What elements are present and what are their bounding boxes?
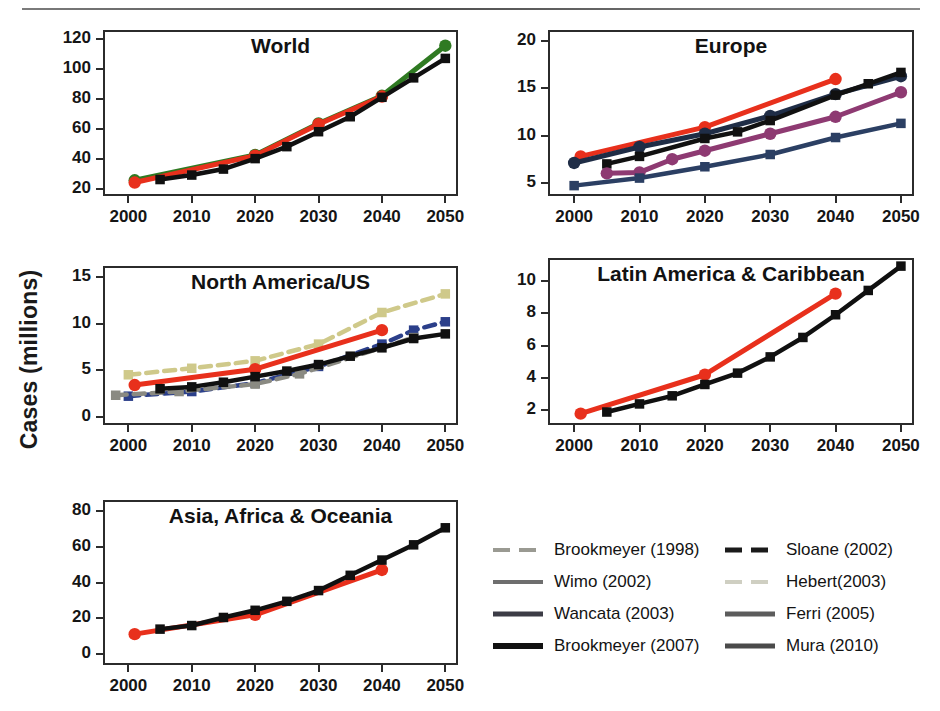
data-point-circle [439, 40, 451, 52]
y-tick-label: 5 [492, 172, 536, 192]
x-tick-mark [381, 196, 383, 203]
legend-item[interactable]: Wancata (2003) [492, 598, 700, 630]
x-tick-mark [381, 425, 383, 432]
x-tick-label: 2030 [289, 207, 349, 227]
data-point-circle [129, 176, 141, 188]
data-point-square [409, 334, 419, 344]
legend-label: Brookmeyer (1998) [554, 540, 700, 560]
y-tick-mark [96, 369, 103, 371]
y-tick-label: 10 [492, 270, 536, 290]
x-tick-label: 2040 [352, 207, 412, 227]
data-point-circle [633, 141, 645, 153]
legend-item[interactable]: Brookmeyer (2007) [492, 630, 700, 662]
data-point-circle [829, 287, 841, 299]
x-tick-label: 2010 [162, 207, 222, 227]
legend-item[interactable]: Brookmeyer (1998) [492, 534, 700, 566]
legend-label: Brookmeyer (2007) [554, 636, 700, 656]
y-tick-mark [541, 280, 548, 282]
data-point-circle [129, 379, 141, 391]
y-tick-mark [96, 158, 103, 160]
x-tick-label: 2030 [740, 207, 800, 227]
legend-item[interactable]: Wimo (2002) [492, 566, 700, 598]
y-tick-label: 20 [492, 30, 536, 50]
x-tick-mark [318, 196, 320, 203]
x-tick-mark [254, 665, 256, 672]
data-point-square [441, 317, 451, 327]
x-tick-label: 2020 [225, 676, 285, 696]
data-point-circle [574, 407, 586, 419]
legend-column-left: Brookmeyer (1998)Wimo (2002)Wancata (200… [492, 534, 700, 662]
data-point-square [124, 370, 134, 380]
data-point-square [155, 384, 165, 394]
x-tick-mark [444, 425, 446, 432]
series-layer [548, 258, 914, 425]
x-tick-mark [127, 665, 129, 672]
x-tick-mark [900, 196, 902, 203]
data-point-square [377, 555, 387, 565]
x-tick-mark [639, 425, 641, 432]
x-tick-mark [704, 425, 706, 432]
data-point-circle [376, 324, 388, 336]
data-point-square [187, 621, 197, 631]
y-axis-label-container: Cases (millions) [0, 250, 42, 480]
y-tick-label: 10 [492, 125, 536, 145]
legend-line-swatch [724, 544, 776, 556]
legend-item[interactable]: Sloane (2002) [724, 534, 893, 566]
data-point-square [377, 343, 387, 353]
legend-line-swatch [492, 544, 544, 556]
y-tick-mark [96, 510, 103, 512]
legend-line-swatch [492, 608, 544, 620]
y-tick-label: 5 [47, 359, 91, 379]
data-point-circle [699, 369, 711, 381]
x-tick-mark [191, 196, 193, 203]
panel-north-america: North America/US051015200020102020203020… [103, 266, 458, 425]
data-point-square [250, 606, 260, 616]
data-point-square [409, 73, 419, 83]
y-tick-label: 20 [47, 607, 91, 627]
data-point-square [409, 540, 419, 550]
dementia-projection-figure: Cases (millions) World204060801001202000… [0, 0, 940, 711]
y-tick-label: 6 [492, 335, 536, 355]
data-point-square [864, 79, 874, 89]
y-tick-mark [541, 409, 548, 411]
data-point-square [831, 90, 841, 100]
x-tick-label: 2000 [544, 436, 604, 456]
x-tick-label: 2050 [871, 436, 931, 456]
data-point-square [345, 571, 355, 581]
legend-item[interactable]: Hebert(2003) [724, 566, 893, 598]
legend-label: Ferri (2005) [786, 604, 875, 624]
y-tick-label: 2 [492, 399, 536, 419]
legend-item[interactable]: Mura (2010) [724, 630, 893, 662]
data-point-circle [601, 167, 613, 179]
y-tick-mark [96, 617, 103, 619]
data-point-square [111, 391, 121, 401]
y-tick-label: 15 [47, 266, 91, 286]
data-point-square [219, 164, 229, 174]
data-point-square [700, 162, 710, 172]
x-tick-label: 2040 [352, 436, 412, 456]
series-layer [103, 30, 458, 196]
series-line [160, 528, 445, 629]
data-point-square [765, 150, 775, 160]
data-point-square [187, 170, 197, 180]
panel-europe: Europe5101520200020102020203020402050 [548, 30, 914, 196]
y-tick-label: 0 [47, 643, 91, 663]
data-point-circle [568, 157, 580, 169]
data-point-square [441, 523, 451, 533]
data-point-square [345, 351, 355, 361]
x-tick-label: 2010 [610, 207, 670, 227]
top-divider-rule [22, 8, 920, 10]
legend-item[interactable]: Ferri (2005) [724, 598, 893, 630]
x-tick-mark [254, 196, 256, 203]
legend-label: Mura (2010) [786, 636, 879, 656]
series-line [160, 334, 445, 389]
y-axis-label: Cases (millions) [16, 245, 43, 475]
data-point-square [441, 329, 451, 339]
x-tick-mark [769, 425, 771, 432]
y-tick-label: 40 [47, 148, 91, 168]
data-point-square [569, 181, 579, 191]
data-point-square [377, 308, 387, 318]
data-point-square [635, 152, 645, 162]
series-layer [103, 500, 458, 665]
y-tick-mark [541, 377, 548, 379]
